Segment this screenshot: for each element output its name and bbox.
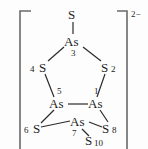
atom-label-s-6: S (33, 122, 40, 135)
atom-label-as-5: As (49, 97, 64, 110)
atom-index-as-1: 1 (94, 87, 99, 96)
bond-as7-s8 (89, 122, 102, 127)
atom-label-as-3: As (64, 35, 79, 48)
chemical-structure-figure: S As 3 S 4 S 2 As 5 As 1 S 6 As 7 S 8 S … (0, 0, 148, 149)
bond-as5-s6 (41, 110, 54, 123)
atom-label-as-1: As (88, 97, 103, 110)
atom-index-s-2: 2 (111, 65, 116, 74)
bond-s4-as5 (45, 74, 54, 97)
bracket-right-icon (117, 11, 127, 149)
atom-index-as-7: 7 (72, 129, 77, 138)
atom-index-as-3: 3 (71, 49, 76, 58)
bond-s6-as7 (41, 121, 70, 127)
bond-as3-s4 (48, 47, 64, 61)
atom-index-s-8: 8 (112, 126, 117, 135)
atom-label-as-7: As (70, 115, 85, 128)
atom-index-s-6: 6 (24, 126, 29, 135)
overall-charge-label: 2− (131, 10, 141, 19)
atom-index-s-4: 4 (30, 65, 35, 74)
atom-label-s-8: S (102, 122, 109, 135)
atom-label-s-10: S (85, 134, 92, 147)
atom-index-as-5: 5 (57, 87, 62, 96)
atom-label-s-2: S (101, 61, 108, 74)
atom-label-s-4: S (39, 61, 46, 74)
atom-index-s-10: 10 (94, 139, 103, 148)
atom-label-s-top: S (68, 8, 75, 21)
bond-as3-s2 (83, 47, 101, 61)
